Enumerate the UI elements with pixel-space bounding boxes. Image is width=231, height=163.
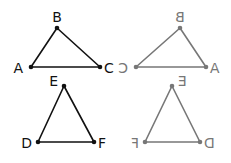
vertex-label-b: B — [175, 9, 185, 25]
vertex-point-c — [98, 65, 103, 70]
vertex-point-b — [178, 26, 183, 31]
vertex-label-d: D — [21, 135, 32, 151]
triangle-reflection-diagram: BACBCAEDFEFD — [0, 0, 231, 163]
vertex-label-d: D — [204, 135, 215, 151]
vertex-label-a: A — [13, 60, 23, 76]
triangle-edges — [31, 28, 100, 67]
triangle-def-mirror: EFD — [131, 73, 215, 151]
vertex-label-b: B — [52, 9, 62, 25]
vertex-point-f — [92, 140, 97, 145]
vertex-label-c: C — [104, 60, 114, 76]
triangle-def: EDF — [21, 73, 106, 151]
vertex-point-d — [198, 140, 203, 145]
vertex-label-e: E — [178, 73, 187, 89]
vertex-point-b — [55, 26, 60, 31]
vertex-label-e: E — [49, 73, 58, 89]
triangle-edges — [38, 86, 94, 142]
vertex-label-a: A — [210, 60, 220, 76]
triangle-edges — [145, 86, 200, 142]
vertex-point-f — [143, 140, 148, 145]
triangle-abc-mirror: BCA — [118, 9, 220, 76]
vertex-point-a — [29, 65, 34, 70]
vertex-label-c: C — [118, 60, 128, 76]
triangle-abc: BAC — [13, 9, 114, 76]
vertex-point-e — [170, 84, 175, 89]
vertex-point-e — [62, 84, 67, 89]
triangle-edges — [136, 28, 206, 67]
vertex-label-f: F — [131, 135, 139, 151]
vertex-point-d — [36, 140, 41, 145]
vertex-point-a — [204, 65, 209, 70]
vertex-point-c — [134, 65, 139, 70]
vertex-label-f: F — [98, 135, 106, 151]
